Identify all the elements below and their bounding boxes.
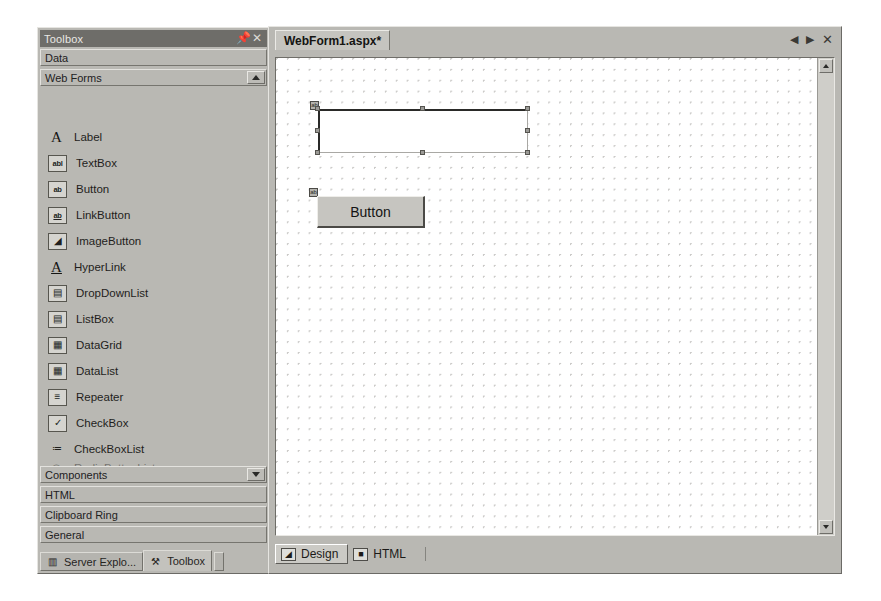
toolbox-titlebar: Toolbox 📌 ✕ <box>40 30 267 47</box>
toolbox-item-textbox[interactable]: abl TextBox <box>40 150 267 176</box>
textbox-control[interactable] <box>318 109 528 153</box>
toolbox-item-datalist[interactable]: ▦ DataList <box>40 358 267 384</box>
toolbox-item-label[interactable]: A Label <box>40 124 267 150</box>
toolbox-category-html[interactable]: HTML <box>40 486 267 503</box>
toolbox-category-clipboard-ring[interactable]: Clipboard Ring <box>40 506 267 523</box>
hyperlink-icon: A <box>48 260 65 275</box>
toolbox-item-datagrid[interactable]: ▦ DataGrid <box>40 332 267 358</box>
resize-handle-sw[interactable] <box>315 150 320 155</box>
label-icon: A <box>48 130 65 145</box>
checkbox-icon: ✓ <box>48 415 67 432</box>
view-tab-divider <box>425 547 426 561</box>
toolbox-item-dropdownlist[interactable]: ▤ DropDownList <box>40 280 267 306</box>
button-control[interactable]: Button <box>317 196 425 228</box>
toolbox-category-label: Web Forms <box>45 72 102 84</box>
close-document-icon[interactable]: ✕ <box>822 34 833 45</box>
toolbox-item-imagebutton[interactable]: ◢ ImageButton <box>40 228 267 254</box>
html-view-icon: ■ <box>353 548 368 561</box>
toolbox-item-checkbox[interactable]: ✓ CheckBox <box>40 410 267 436</box>
editor-tab-buttons: ◀ ▶ ✕ <box>790 34 833 45</box>
linkbutton-icon: ab <box>48 207 67 224</box>
toolbox-category-label: Data <box>45 52 68 64</box>
nav-prev-icon[interactable]: ◀ <box>790 34 798 45</box>
toolbox-item-text: ImageButton <box>76 235 141 247</box>
scroll-up-button[interactable] <box>247 71 265 84</box>
panel-tab-server-explorer[interactable]: ▥ Server Explo... <box>40 552 143 571</box>
datalist-icon: ▦ <box>48 363 67 380</box>
button-control-label: Button <box>350 204 390 220</box>
toolbox-item-text: ListBox <box>76 313 114 325</box>
scroll-down-button[interactable] <box>247 468 265 481</box>
panel-tab-label: Toolbox <box>167 555 205 567</box>
tab-design[interactable]: ◢ Design <box>275 544 348 564</box>
resize-handle-w[interactable] <box>315 128 320 133</box>
toolbox-item-hyperlink[interactable]: A HyperLink <box>40 254 267 280</box>
application-window: Toolbox 📌 ✕ Data Web Forms A Label abl T… <box>0 0 881 601</box>
resize-handle-s[interactable] <box>420 150 425 155</box>
scrollbar-down-button[interactable] <box>819 520 833 534</box>
panel-tab-overflow[interactable] <box>214 552 224 571</box>
resize-handle-e[interactable] <box>525 128 530 133</box>
toolbox-bottom-categories: Components HTML Clipboard Ring General <box>40 466 267 543</box>
panel-tabstrip: ▥ Server Explo... ⚒ Toolbox <box>40 550 267 571</box>
resize-handle-se[interactable] <box>525 150 530 155</box>
panel-tab-label: Server Explo... <box>64 556 136 568</box>
toolbox-category-web-forms[interactable]: Web Forms <box>40 69 267 86</box>
scrollbar-up-button[interactable] <box>819 59 833 73</box>
checkboxlist-icon: ≔ <box>48 442 65 457</box>
toolbox-item-text: CheckBoxList <box>74 443 144 455</box>
toolbox-category-label: General <box>45 529 84 541</box>
up-arrow-icon <box>823 64 829 68</box>
server-explorer-icon: ▥ <box>45 555 60 568</box>
toolbox-category-general[interactable]: General <box>40 526 267 543</box>
resize-handle-ne[interactable] <box>525 106 530 111</box>
toolbox-item-text: Label <box>74 131 102 143</box>
chevron-up-icon <box>252 75 260 80</box>
listbox-icon: ▤ <box>48 311 67 328</box>
toolbox-category-data[interactable]: Data <box>40 49 267 66</box>
toolbox-category-label: HTML <box>45 489 75 501</box>
document-tab-webform1[interactable]: WebForm1.aspx* <box>275 30 390 50</box>
resize-handle-nw[interactable] <box>315 106 320 111</box>
design-surface-frame: ab ab Button <box>275 57 835 536</box>
repeater-icon: ≡ <box>48 389 67 406</box>
nav-next-icon[interactable]: ▶ <box>806 34 814 45</box>
toolbox-item-button[interactable]: ab Button <box>40 176 267 202</box>
toolbox-item-text: DropDownList <box>76 287 148 299</box>
toolbox-item-checkboxlist[interactable]: ≔ CheckBoxList <box>40 436 267 462</box>
view-tab-label: HTML <box>373 547 406 561</box>
pin-icon[interactable]: 📌 <box>236 33 250 44</box>
toolbox-item-text: DataList <box>76 365 118 377</box>
close-icon[interactable]: ✕ <box>250 33 264 44</box>
textbox-icon: abl <box>48 155 67 172</box>
resize-handle-n[interactable] <box>420 106 425 111</box>
toolbox-item-listbox[interactable]: ▤ ListBox <box>40 306 267 332</box>
toolbox-item-text: CheckBox <box>76 417 128 429</box>
toolbox-item-text: DataGrid <box>76 339 122 351</box>
toolbox-item-linkbutton[interactable]: ab LinkButton <box>40 202 267 228</box>
toolbox-item-repeater[interactable]: ≡ Repeater <box>40 384 267 410</box>
document-tab-label: WebForm1.aspx* <box>284 34 381 48</box>
toolbox-item-list[interactable]: A Label abl TextBox ab Button ab LinkBut… <box>40 124 267 466</box>
toolbox-item-text: TextBox <box>76 157 117 169</box>
design-view-icon: ◢ <box>281 548 296 561</box>
down-arrow-icon <box>823 525 829 529</box>
imagebutton-icon: ◢ <box>48 233 67 250</box>
toolbox-category-components[interactable]: Components <box>40 466 267 483</box>
datagrid-icon: ▦ <box>48 337 67 354</box>
design-surface[interactable]: ab ab Button <box>276 58 817 535</box>
button-icon: ab <box>48 181 67 198</box>
view-tabstrip: ◢ Design ■ HTML <box>275 543 426 565</box>
toolbox-item-text: Button <box>76 183 109 195</box>
toolbox-item-text: LinkButton <box>76 209 130 221</box>
toolbox-title: Toolbox <box>44 33 83 45</box>
toolbox-category-label: Components <box>45 469 107 481</box>
toolbox-panel: Toolbox 📌 ✕ Data Web Forms A Label abl T… <box>37 27 269 574</box>
tab-html[interactable]: ■ HTML <box>348 544 415 564</box>
toolbox-item-text: HyperLink <box>74 261 126 273</box>
view-tab-label: Design <box>301 547 338 561</box>
design-surface-scrollbar[interactable] <box>817 58 834 535</box>
editor-tabstrip: WebForm1.aspx* ◀ ▶ ✕ <box>269 27 841 53</box>
panel-tab-toolbox[interactable]: ⚒ Toolbox <box>143 550 212 571</box>
dropdownlist-icon: ▤ <box>48 285 67 302</box>
